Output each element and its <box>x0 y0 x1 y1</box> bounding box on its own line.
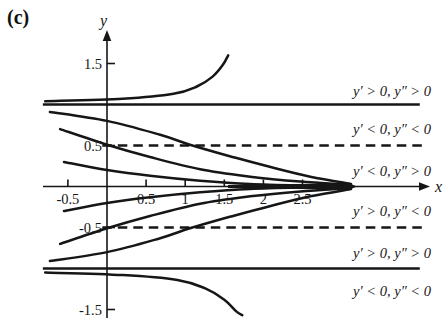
region-label: y′ > 0, y″ > 0 <box>351 245 432 261</box>
region-label: y′ < 0, y″ > 0 <box>351 163 432 179</box>
y-tick-label: -1.5 <box>79 302 102 318</box>
x-tick-label: -0.5 <box>56 191 79 207</box>
region-label: y′ < 0, y″ < 0 <box>351 283 432 299</box>
region-label: y′ < 0, y″ < 0 <box>351 121 432 137</box>
plot-svg: x y -0.50.511.522.51.50.5-0.5-1.5 y′ > 0… <box>0 0 447 323</box>
x-tick-label: 2 <box>260 191 267 207</box>
region-label: y′ > 0, y″ < 0 <box>351 203 432 219</box>
y-tick-label: 1.5 <box>84 56 102 72</box>
y-axis-arrow-icon <box>103 30 112 41</box>
solution-diverging-above-y1 <box>45 55 228 101</box>
region-label: y′ > 0, y″ > 0 <box>351 83 432 99</box>
x-axis-label: x <box>434 178 442 195</box>
phase-portrait-figure: (c) x y -0.50.511.522.51.50.5-0.5-1.5 y′… <box>0 0 447 323</box>
solution-diverging-below-yminus1 <box>45 273 242 316</box>
x-axis-arrow-icon <box>419 182 430 191</box>
y-axis-label: y <box>98 12 108 30</box>
